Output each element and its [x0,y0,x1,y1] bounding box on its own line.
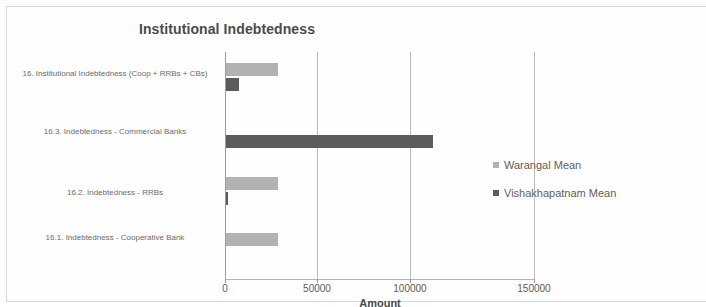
category-label-3: 16.1. Indebtedness - Cooperative Bank [15,233,215,244]
legend-item-vishakhapatnam-mean: Vishakhapatnam Mean [493,187,668,199]
bar-0-series-0 [226,63,278,76]
category-label-2: 16.2. Indebtedness - RRBs [15,188,215,199]
category-label-1: 16.3. Indebtedness - Commercial Banks [15,127,215,138]
chart-legend: Warangal Mean Vishakhapatnam Mean [493,159,668,215]
legend-label-1: Vishakhapatnam Mean [504,187,616,199]
bar-1-series-1 [226,135,433,148]
chart-title: Institutional Indebtedness [7,21,447,37]
x-axis-title: Amount [225,297,535,307]
category-label-0: 16. Institutional Indebtedness (Coop + R… [15,69,215,80]
chart-frame: Institutional Indebtedness 16. Instituti… [6,6,706,302]
x-tick-label-0: 0 [190,283,260,294]
bar-0-series-1 [226,78,239,91]
bar-2-series-1 [226,192,228,205]
bar-group-2 [225,166,535,223]
square-marker-icon [493,162,499,168]
bar-3-series-0 [226,233,278,246]
x-axis-line [225,279,535,280]
legend-item-warangal-mean: Warangal Mean [493,159,668,171]
legend-label-0: Warangal Mean [504,159,581,171]
bar-group-0 [225,52,535,109]
square-marker-icon [493,190,499,196]
x-tick-label-2: 100000 [375,283,445,294]
bar-group-1 [225,109,535,166]
bar-2-series-0 [226,177,278,190]
bar-group-3 [225,222,535,279]
x-tick-label-3: 150000 [499,283,569,294]
x-tick-label-1: 50000 [282,283,352,294]
plot-area [225,52,535,279]
